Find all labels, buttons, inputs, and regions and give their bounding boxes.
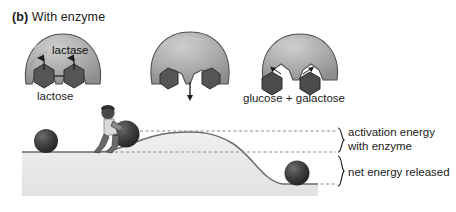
figure-panel: (b) With enzyme [0, 0, 456, 212]
activation-energy-line-2: with enzyme [348, 140, 435, 154]
enzyme-substrate-complex-icon [151, 32, 229, 89]
curly-brace-icon [338, 156, 344, 186]
release-arrow-head-icon [308, 67, 314, 73]
energy-fill [22, 132, 318, 196]
products-label: glucose + galactose [243, 92, 345, 104]
net-energy-label: net energy released [348, 166, 450, 178]
enzyme-label: lactase [52, 44, 88, 56]
energy-diagram [22, 105, 344, 196]
curly-brace-icon [338, 128, 344, 152]
person-pushing-ball-icon [94, 105, 123, 153]
figure-artwork [0, 0, 456, 212]
activation-energy-label: activation energy with enzyme [348, 126, 435, 153]
boulder-icon [34, 129, 58, 153]
down-arrow-head-icon [187, 95, 193, 101]
boulder-icon [285, 161, 310, 186]
substrate-label: lactose [37, 90, 73, 102]
activation-energy-line-1: activation energy [348, 126, 435, 140]
